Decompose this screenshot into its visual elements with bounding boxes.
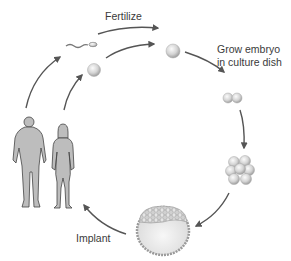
diagram-canvas <box>0 0 291 261</box>
two-cell-embryo-icon <box>223 93 242 103</box>
man-figure-icon <box>13 117 46 207</box>
blastocyst-icon <box>137 206 189 255</box>
arrow-woman-to-egg <box>64 75 82 110</box>
arrow-egg-to-zygote <box>106 44 154 58</box>
arrow-blastocyst-to-woman <box>84 205 126 234</box>
label-implant: Implant <box>76 232 110 244</box>
label-grow-embryo-line1: Grow embryo <box>217 43 280 55</box>
arrow-sperm-to-zygote <box>98 27 158 34</box>
arrow-man-to-sperm <box>26 57 60 108</box>
label-grow-embryo-line2: in culture dish <box>217 56 282 68</box>
arrow-morula-to-blastocyst <box>196 193 229 226</box>
zygote-icon <box>166 44 180 58</box>
morula-icon <box>226 156 255 185</box>
arrow-twocell-to-morula <box>240 110 244 148</box>
sperm-icon <box>66 42 97 47</box>
label-fertilize: Fertilize <box>105 10 142 22</box>
egg-icon <box>88 64 101 77</box>
woman-figure-icon <box>52 124 74 208</box>
